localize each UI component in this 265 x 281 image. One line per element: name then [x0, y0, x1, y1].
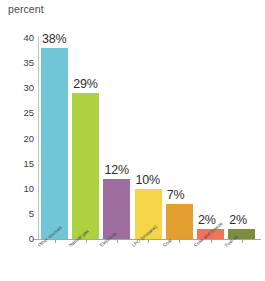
x-tick-mark: [86, 239, 87, 243]
x-axis-category-labels: Other sourcesNatural gasElectricityLPG (…: [0, 239, 265, 281]
x-tick-mark: [117, 239, 118, 243]
x-tick-mark: [179, 239, 180, 243]
x-tick-mark: [242, 239, 243, 243]
bar: [166, 204, 193, 239]
category-label: Coal: [162, 238, 173, 248]
bar: [72, 93, 99, 239]
bar: [103, 179, 130, 239]
bar-value-label: 10%: [136, 174, 160, 187]
bar-value-label: 12%: [104, 164, 128, 177]
x-tick-mark: [148, 239, 149, 243]
bars-layer: [0, 0, 265, 239]
x-tick-mark: [55, 239, 56, 243]
bar: [41, 48, 68, 239]
bar-value-label: 2%: [229, 214, 247, 227]
bar-value-label: 38%: [42, 33, 66, 46]
x-tick-mark: [211, 239, 212, 243]
bar-value-label: 7%: [167, 189, 185, 202]
bar-chart: percent 0510152025303540 Other sourcesNa…: [0, 0, 265, 281]
bar-value-label: 2%: [198, 214, 216, 227]
bar-value-label: 29%: [73, 78, 97, 91]
